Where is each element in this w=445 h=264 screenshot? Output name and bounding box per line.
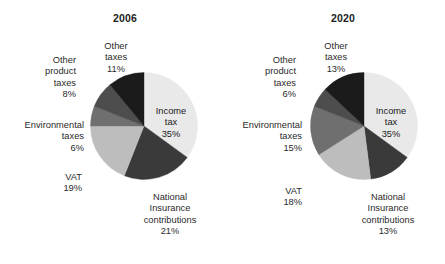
label-line: Other (10, 55, 76, 66)
slice-percent: 35% (144, 129, 198, 140)
slice-percent: 8% (10, 89, 76, 100)
label-line: Insurance (340, 203, 436, 214)
label-line: National (122, 192, 218, 203)
label-line: product (10, 66, 76, 77)
label-line: National (340, 192, 436, 203)
label-line: contributions (340, 215, 436, 226)
label-line: Other (86, 41, 146, 52)
slice-label-vat-2006: VAT 19% (20, 172, 82, 195)
slice-label-other-product-taxes-2006: Other product taxes 8% (10, 55, 76, 101)
chart-panel-2020: 2020 Other taxes 13% Other product taxes… (222, 0, 444, 264)
label-line: Income (364, 106, 418, 117)
slice-label-other-taxes-2006: Other taxes 11% (86, 41, 146, 75)
slice-percent: 11% (86, 64, 146, 75)
label-line: Income (144, 106, 198, 117)
label-line: product (230, 66, 296, 77)
slice-percent: 13% (340, 226, 436, 237)
label-line: tax (364, 117, 418, 128)
label-line: taxes (10, 78, 76, 89)
slice-percent: 21% (122, 226, 218, 237)
label-line: taxes (86, 52, 146, 63)
label-line: taxes (216, 131, 302, 142)
label-line: Insurance (122, 203, 218, 214)
label-line: taxes (230, 78, 296, 89)
label-line: tax (144, 117, 198, 128)
label-line: Other (306, 41, 366, 52)
slice-label-national-insurance-2020: National Insurance contributions 13% (340, 192, 436, 238)
slice-label-environmental-taxes-2006: Environmental taxes 6% (0, 120, 84, 154)
slice-label-environmental-taxes-2020: Environmental taxes 15% (216, 120, 302, 154)
slice-label-income-tax-2020: Income tax 35% (364, 106, 418, 140)
label-line: taxes (306, 52, 366, 63)
slice-label-other-product-taxes-2020: Other product taxes 6% (230, 55, 296, 101)
label-line: Environmental (0, 120, 84, 131)
slice-percent: 6% (0, 143, 84, 154)
chart-title-2020: 2020 (232, 12, 445, 24)
slice-percent: 35% (364, 129, 418, 140)
slice-percent: 15% (216, 143, 302, 154)
chart-panel-2006: 2006 Other taxes 11% Other product taxes… (0, 0, 222, 264)
slice-percent: 19% (20, 183, 82, 194)
pie-chart-figure: 2006 Other taxes 11% Other product taxes… (0, 0, 445, 264)
slice-label-other-taxes-2020: Other taxes 13% (306, 41, 366, 75)
slice-percent: 6% (230, 89, 296, 100)
chart-title-2006: 2006 (14, 12, 236, 24)
label-line: Environmental (216, 120, 302, 131)
slice-label-national-insurance-2006: National Insurance contributions 21% (122, 192, 218, 238)
label-line: VAT (240, 186, 302, 197)
slice-percent: 13% (306, 64, 366, 75)
label-line: contributions (122, 215, 218, 226)
slice-percent: 18% (240, 197, 302, 208)
slice-label-income-tax-2006: Income tax 35% (144, 106, 198, 140)
label-line: Other (230, 55, 296, 66)
label-line: taxes (0, 131, 84, 142)
label-line: VAT (20, 172, 82, 183)
slice-label-vat-2020: VAT 18% (240, 186, 302, 209)
